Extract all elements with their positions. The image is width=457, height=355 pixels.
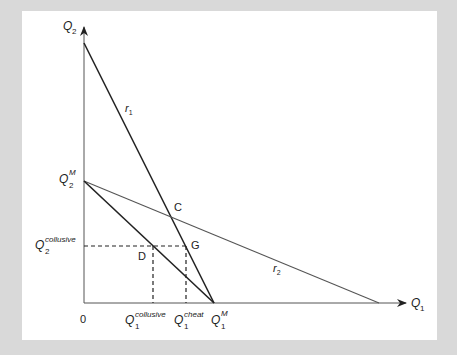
q1-cheat-label: Q cheat 1 [174,314,183,326]
q2-collusive-label: Q collusive 2 [35,239,44,251]
origin-label: 0 [80,314,86,325]
r1-label: r1 [125,103,133,116]
q1-monopoly-label: Q M 1 [211,314,220,326]
r2-line [84,181,379,303]
r1-line [84,43,214,303]
diagram-canvas [0,0,457,355]
q1-collusive-label: Q collusive 1 [125,314,134,326]
point-d-label: D [138,251,146,262]
q2-monopoly-label: Q M 2 [59,173,68,185]
point-c-label: C [174,202,182,213]
r2-label: r2 [273,263,281,276]
point-g-label: G [191,240,200,251]
x-axis-label: Q1 [411,297,420,309]
y-axis-label: Q2 [63,20,72,32]
